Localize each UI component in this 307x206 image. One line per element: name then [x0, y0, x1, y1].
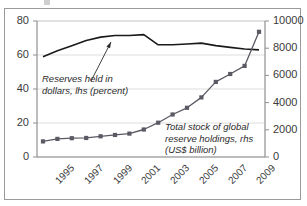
y-axis-left-tick-0: 0 [1, 151, 29, 162]
reserves-share-annotation-line-1: Reserves held in [42, 73, 128, 85]
y-axis-left-tick-60: 60 [1, 49, 29, 60]
y-axis-right-tick-8000: 8000 [273, 42, 307, 53]
reserve-holdings-annotation: Total stock of global reserve holdings, … [165, 121, 253, 156]
y-axis-right-tick-4000: 4000 [273, 97, 307, 108]
reserve-holdings-annotation-line-1: Total stock of global [165, 121, 253, 133]
reserve-holdings-annotation-line-3: (US$ billion) [165, 144, 253, 156]
y-axis-right-tick-0: 0 [273, 151, 307, 162]
top-edge-artifact [44, 0, 50, 5]
y-axis-left-tick-80: 80 [1, 15, 29, 26]
reserve-holdings-annotation-line-2: reserve holdings, rhs [165, 133, 253, 145]
y-axis-right-tick-6000: 6000 [273, 69, 307, 80]
reserves-share-annotation: Reserves held in dollars, lhs (percent) [42, 73, 128, 96]
chart-frame: 80 60 40 20 0 10000 8000 6000 4000 2000 … [4, 8, 301, 200]
y-axis-left-ticks [33, 21, 37, 157]
y-axis-left-tick-40: 40 [1, 83, 29, 94]
y-axis-right-ticks [265, 21, 269, 157]
y-axis-right-tick-2000: 2000 [273, 124, 307, 135]
y-axis-left-tick-20: 20 [1, 117, 29, 128]
y-axis-right-tick-10000: 10000 [273, 15, 307, 26]
reserves-share-annotation-line-2: dollars, lhs (percent) [42, 85, 128, 97]
